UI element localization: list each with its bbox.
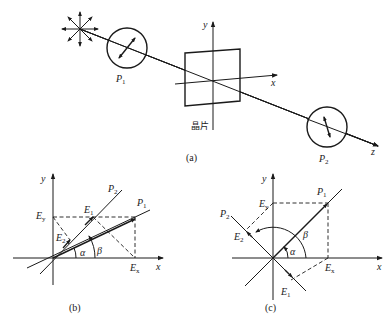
- caption-c: (c): [265, 302, 276, 314]
- b-p2-label: P2: [107, 183, 118, 196]
- panel-a: P1 y x 晶片 (a) z P2: [62, 12, 378, 166]
- c-y-label: y: [261, 173, 267, 184]
- c-x-label: x: [376, 261, 382, 272]
- b-e1-label: E1: [83, 204, 94, 217]
- c-beta: β: [302, 229, 308, 240]
- c-alpha: α: [290, 246, 296, 257]
- b-ex-label: Ex: [129, 262, 140, 275]
- caption-b: (b): [69, 302, 81, 314]
- b-y-label: y: [40, 173, 46, 184]
- b-beta: β: [96, 245, 102, 256]
- b-e2-label: E2: [55, 232, 66, 245]
- crystal-label: 晶片: [191, 120, 209, 131]
- c-p1-label: P1: [316, 186, 327, 199]
- b-p1-label: P1: [136, 197, 147, 210]
- p2-label: P2: [318, 153, 329, 166]
- z-axis-label: z: [370, 146, 375, 157]
- y-axis-label: y: [202, 19, 208, 30]
- c-p2-label: P2: [219, 208, 230, 221]
- panel-c: y x α β P1 P2 Ey E2 E1 Ex (c): [219, 173, 382, 314]
- b-ey-label: Ey: [35, 210, 46, 223]
- c-e2-label: E2: [233, 231, 244, 244]
- b-alpha: α: [80, 247, 86, 258]
- b-p2-line: [40, 190, 122, 274]
- c-e1-label: E1: [280, 286, 291, 299]
- c-ey-label: Ey: [258, 198, 269, 211]
- c-ex-label: Ex: [324, 262, 335, 275]
- panel-b: y x α β P2 P1 E1 E2 Ey Ex (b): [13, 173, 163, 314]
- x-axis-label: x: [270, 77, 276, 88]
- caption-a: (a): [186, 152, 197, 164]
- polarization-diagram: P1 y x 晶片 (a) z P2 y x: [0, 0, 392, 326]
- p1-label: P1: [115, 73, 126, 86]
- b-x-label: x: [155, 261, 161, 272]
